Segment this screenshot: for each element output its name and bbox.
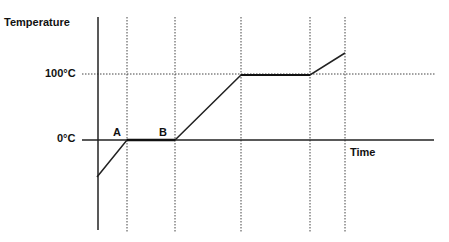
vertical-guides	[127, 17, 345, 232]
heating-curve	[97, 53, 345, 177]
x-axis-label: Time	[350, 147, 375, 158]
tick-0c-label: 0°C	[57, 133, 75, 144]
point-a-label: A	[113, 127, 121, 138]
heating-curve-diagram	[0, 0, 449, 242]
tick-100c-label: 100°C	[45, 68, 76, 79]
y-axis-label: Temperature	[4, 17, 70, 28]
point-b-label: B	[159, 127, 167, 138]
